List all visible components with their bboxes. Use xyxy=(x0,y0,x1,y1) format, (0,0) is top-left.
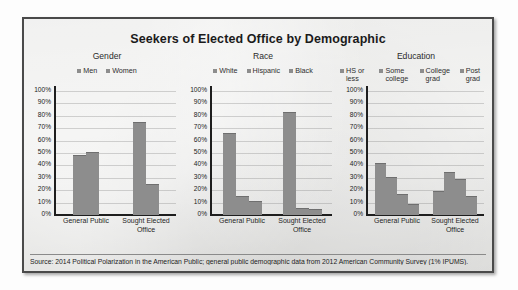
bar-group xyxy=(212,91,272,215)
legend-swatch-icon xyxy=(213,69,217,73)
legend-item-education-3[interactable]: Post grad xyxy=(460,67,492,83)
y-axis-tick-label: 80% xyxy=(194,111,207,118)
y-axis-tick-label: 70% xyxy=(194,123,207,130)
plot-area-race: 100%90%80%70%60%50%40%30%20%10%0% Genera… xyxy=(210,91,332,215)
bars-gender xyxy=(56,91,176,215)
plot-area-education: 100%90%80%70%60%50%40%30%20%10%0% Genera… xyxy=(366,91,484,215)
x-axis-category-label: Sought Elected Office xyxy=(116,217,176,243)
legend-label: Men xyxy=(83,67,97,75)
y-axis-tick-label: 60% xyxy=(194,136,207,143)
y-axis-tick-label: 100% xyxy=(190,86,207,93)
bar xyxy=(223,133,236,215)
y-axis-tick-label: 20% xyxy=(350,185,363,192)
bars-race xyxy=(212,91,332,215)
bar xyxy=(236,196,249,215)
legend-gender: MenWomen xyxy=(28,67,186,75)
y-axis-tick-label: 30% xyxy=(194,173,207,180)
y-axis-tick-label: 70% xyxy=(38,123,51,130)
bar xyxy=(86,152,99,215)
legend-item-gender-0[interactable]: Men xyxy=(77,67,97,75)
y-axis-tick-label: 0% xyxy=(353,210,363,217)
legend-swatch-icon xyxy=(106,69,110,73)
legend-label: White xyxy=(219,67,237,75)
bar xyxy=(249,201,262,215)
bar xyxy=(296,208,309,215)
legend-label: HS or less xyxy=(346,67,374,83)
bar xyxy=(466,196,477,215)
y-axis-tick-label: 30% xyxy=(38,173,51,180)
x-axis-category-label: Sought Elected Office xyxy=(272,217,332,243)
legend-education: HS or lessSome collegeCollege gradPost g… xyxy=(340,67,492,83)
bar xyxy=(408,204,419,215)
bar xyxy=(375,163,386,215)
panel-title-gender: Gender xyxy=(28,51,186,61)
x-axis-category-label: General Public xyxy=(56,217,116,243)
page-title: Seekers of Elected Office by Demographic xyxy=(24,32,492,46)
y-axis-tick-label: 40% xyxy=(350,160,363,167)
legend-item-education-1[interactable]: Some college xyxy=(379,67,414,83)
bar xyxy=(309,209,322,215)
y-axis-tick-label: 20% xyxy=(38,185,51,192)
y-axis-tick-label: 90% xyxy=(194,98,207,105)
legend-item-gender-1[interactable]: Women xyxy=(106,67,137,75)
panel-title-education: Education xyxy=(340,51,492,61)
panel-title-race: Race xyxy=(184,51,342,61)
legend-swatch-icon xyxy=(289,69,293,73)
chart-page: Seekers of Elected Office by Demographic… xyxy=(0,0,518,290)
x-axis-category-label: General Public xyxy=(212,217,272,243)
y-axis-tick-label: 60% xyxy=(350,136,363,143)
y-axis-labels-gender: 100%90%80%70%60%50%40%30%20%10%0% xyxy=(28,86,52,220)
bar-group xyxy=(272,91,332,215)
legend-label: College grad xyxy=(426,67,455,83)
bar xyxy=(386,177,397,215)
panel-race: Race WhiteHispanicBlack 100%90%80%70%60%… xyxy=(184,51,342,251)
chart-frame: Seekers of Elected Office by Demographic… xyxy=(22,17,494,273)
y-axis-tick-label: 100% xyxy=(34,86,51,93)
y-axis-labels-race: 100%90%80%70%60%50%40%30%20%10%0% xyxy=(184,86,208,220)
legend-race: WhiteHispanicBlack xyxy=(184,67,342,75)
y-axis-tick-label: 10% xyxy=(38,198,51,205)
bar xyxy=(283,112,296,215)
panel-education: Education HS or lessSome collegeCollege … xyxy=(340,51,492,251)
y-axis-tick-label: 40% xyxy=(194,160,207,167)
y-axis-tick-label: 30% xyxy=(350,173,363,180)
legend-item-race-1[interactable]: Hispanic xyxy=(247,67,281,75)
y-axis-tick-label: 40% xyxy=(38,160,51,167)
y-axis-tick-label: 90% xyxy=(350,98,363,105)
bar xyxy=(397,194,408,215)
bar-group xyxy=(56,91,116,215)
bar-group xyxy=(368,91,426,215)
bar xyxy=(73,155,86,215)
chart-inner: Seekers of Elected Office by Demographic… xyxy=(24,19,492,271)
bar xyxy=(133,122,146,215)
y-axis-tick-label: 10% xyxy=(350,198,363,205)
legend-label: Women xyxy=(112,67,137,75)
y-axis-labels-education: 100%90%80%70%60%50%40%30%20%10%0% xyxy=(340,86,364,220)
bar xyxy=(455,179,466,215)
y-axis-tick-label: 20% xyxy=(194,185,207,192)
panel-gender: Gender MenWomen 100%90%80%70%60%50%40%30… xyxy=(28,51,186,251)
bar xyxy=(444,172,455,215)
y-axis-tick-label: 0% xyxy=(41,210,51,217)
y-axis-tick-label: 100% xyxy=(346,86,363,93)
legend-item-race-0[interactable]: White xyxy=(213,67,237,75)
legend-swatch-icon xyxy=(77,69,81,73)
plot-area-gender: 100%90%80%70%60%50%40%30%20%10%0% Genera… xyxy=(54,91,176,215)
x-axis-labels-gender: General PublicSought Elected Office xyxy=(56,217,176,243)
bar xyxy=(146,184,159,215)
y-axis-tick-label: 80% xyxy=(350,111,363,118)
legend-item-race-2[interactable]: Black xyxy=(289,67,313,75)
y-axis-tick-label: 50% xyxy=(38,148,51,155)
legend-label: Post grad xyxy=(466,67,492,83)
y-axis-tick-label: 10% xyxy=(194,198,207,205)
x-axis-category-label: General Public xyxy=(368,217,426,243)
source-note: Source: 2014 Political Polarization in t… xyxy=(30,254,486,265)
y-axis-tick-label: 90% xyxy=(38,98,51,105)
y-axis-tick-label: 50% xyxy=(350,148,363,155)
legend-swatch-icon xyxy=(247,69,251,73)
legend-item-education-2[interactable]: College grad xyxy=(420,67,455,83)
legend-item-education-0[interactable]: HS or less xyxy=(340,67,374,83)
legend-swatch-icon xyxy=(340,69,344,73)
legend-label: Some college xyxy=(385,67,414,83)
y-axis-tick-label: 80% xyxy=(38,111,51,118)
